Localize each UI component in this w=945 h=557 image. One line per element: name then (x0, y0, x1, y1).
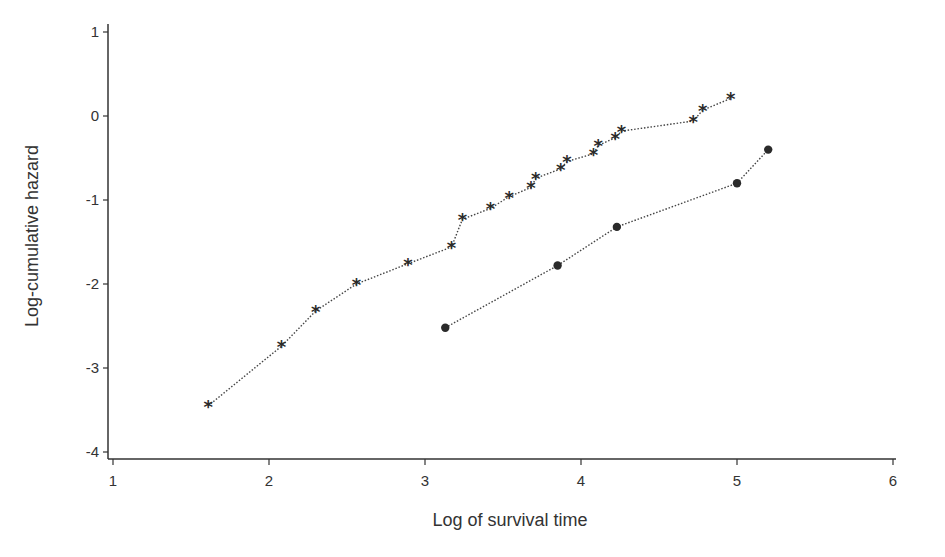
series-line (445, 150, 768, 328)
circle-marker (733, 179, 741, 187)
asterisk-marker: * (698, 100, 708, 121)
plot-series: ******************** (203, 88, 772, 416)
series-line (208, 98, 731, 405)
asterisk-marker: * (447, 237, 457, 258)
y-tick-label: -3 (86, 359, 99, 376)
y-axis-title: Log-cumulative hazard (22, 145, 42, 327)
series-2 (441, 145, 772, 331)
chart-canvas: -4-3-2-101123456 ******************** Lo… (0, 0, 945, 557)
asterisk-marker: * (593, 135, 603, 156)
asterisk-marker: * (277, 336, 287, 357)
y-tick-label: 1 (91, 23, 99, 40)
axes: -4-3-2-101123456 (86, 23, 898, 489)
y-tick-label: -1 (86, 191, 99, 208)
x-tick-label: 4 (577, 472, 585, 489)
y-tick-label: 0 (91, 107, 99, 124)
y-tick-label: -2 (86, 275, 99, 292)
asterisk-marker: * (458, 209, 468, 230)
x-tick-label: 5 (733, 472, 741, 489)
circle-marker (553, 261, 561, 269)
x-axis-title: Log of survival time (432, 510, 587, 530)
x-tick-label: 6 (889, 472, 897, 489)
x-tick-label: 1 (109, 472, 117, 489)
asterisk-marker: * (403, 254, 413, 275)
asterisk-marker: * (726, 88, 736, 109)
asterisk-marker: * (505, 187, 515, 208)
circle-marker (764, 145, 772, 153)
x-tick-label: 2 (265, 472, 273, 489)
circle-marker (441, 323, 449, 331)
asterisk-marker: * (486, 198, 496, 219)
asterisk-marker: * (311, 301, 321, 322)
series-1: ******************** (203, 88, 736, 416)
asterisk-marker: * (562, 151, 572, 172)
y-tick-label: -4 (86, 443, 99, 460)
asterisk-marker: * (531, 168, 541, 189)
asterisk-marker: * (617, 121, 627, 142)
asterisk-marker: * (203, 396, 213, 417)
asterisk-marker: * (352, 274, 362, 295)
circle-marker (613, 223, 621, 231)
x-tick-label: 3 (421, 472, 429, 489)
